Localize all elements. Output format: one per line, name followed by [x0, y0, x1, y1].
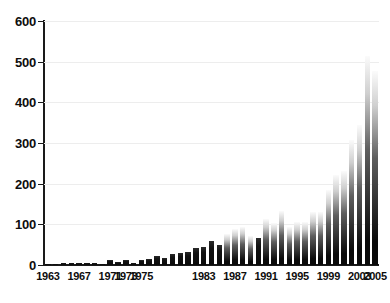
bar — [217, 245, 222, 265]
y-axis-tick-label: 500 — [15, 54, 36, 69]
bar — [69, 263, 74, 265]
bar — [248, 236, 253, 265]
bar — [333, 175, 338, 265]
x-axis-tick-label: 1991 — [254, 270, 277, 282]
y-axis-tick-label: 300 — [15, 136, 36, 151]
bar — [263, 219, 268, 265]
bar — [232, 229, 237, 265]
bar — [193, 248, 198, 265]
bar — [240, 227, 245, 265]
bar — [178, 253, 183, 265]
bar — [84, 263, 89, 265]
bar — [372, 71, 377, 265]
y-axis-tick-label: 0 — [29, 258, 36, 273]
bar — [162, 258, 167, 265]
y-axis-tick-label: 100 — [15, 217, 36, 232]
bar — [92, 263, 97, 265]
x-axis-tick-label: 1963 — [36, 270, 59, 282]
bar — [302, 222, 307, 265]
bar — [318, 212, 323, 265]
bar — [294, 222, 299, 266]
plot-area: 0100200300400500600 — [44, 21, 379, 265]
bars-group — [44, 21, 379, 265]
bar — [365, 56, 370, 265]
bar — [170, 254, 175, 265]
bar — [341, 171, 346, 265]
bar — [357, 125, 362, 265]
bar — [115, 262, 120, 265]
bar — [279, 211, 284, 265]
bar — [287, 227, 292, 265]
y-axis-tick-label: 200 — [15, 176, 36, 191]
bar — [123, 260, 128, 265]
bar — [100, 264, 105, 265]
x-axis-tick-label: 2005 — [363, 270, 386, 282]
bar-chart: 0100200300400500600 19631967197119731975… — [0, 0, 390, 303]
bar — [310, 212, 315, 265]
bar — [349, 140, 354, 265]
x-axis-tick-label: 1987 — [223, 270, 246, 282]
bar — [201, 247, 206, 265]
bar — [139, 260, 144, 265]
x-axis-tick-label: 1983 — [192, 270, 215, 282]
x-axis-tick-label: 1967 — [67, 270, 90, 282]
bar — [326, 190, 331, 265]
x-axis-tick-label: 1995 — [286, 270, 309, 282]
bar — [256, 238, 261, 265]
y-axis-tick-label: 400 — [15, 95, 36, 110]
bar — [107, 260, 112, 265]
bar — [224, 234, 229, 265]
x-axis-tick-label: 1999 — [317, 270, 340, 282]
bar — [271, 223, 276, 265]
bar — [154, 256, 159, 265]
bar — [185, 252, 190, 265]
bar — [146, 259, 151, 265]
bar — [131, 263, 136, 265]
bar — [61, 263, 66, 265]
x-axis-tick-label: 1975 — [130, 270, 153, 282]
bar — [209, 241, 214, 265]
y-axis-tick-label: 600 — [15, 14, 36, 29]
bar — [45, 264, 50, 265]
bar — [53, 264, 58, 265]
bar — [76, 263, 81, 265]
y-tick-mark — [38, 265, 44, 266]
